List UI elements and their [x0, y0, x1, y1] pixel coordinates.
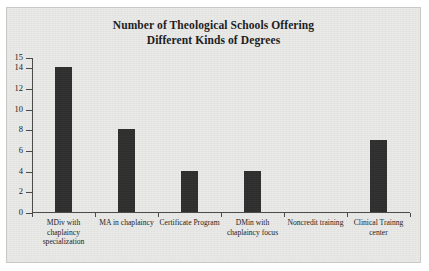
y-tick-6: 6	[26, 151, 32, 152]
x-tick-5	[347, 213, 348, 217]
x-label-line: chaplaincy focus	[221, 228, 284, 238]
y-tick-15: 15	[26, 58, 32, 59]
y-tick-4: 4	[26, 172, 32, 173]
x-label-line: DMin with	[221, 218, 284, 228]
x-label-0: MDiv withchaplaincyspecialization	[32, 218, 95, 247]
y-tick-14: 14	[26, 68, 32, 69]
y-tick-label-15: 15	[15, 51, 24, 64]
x-tick-6	[410, 213, 411, 217]
bar-0	[55, 67, 72, 212]
x-label-3: DMin withchaplaincy focus	[221, 218, 284, 237]
x-label-4: Noncredit training	[284, 218, 347, 228]
bar-chart-figure: Number of Theological Schools Offering D…	[6, 7, 421, 263]
x-tick-3	[221, 213, 222, 217]
y-tick-10: 10	[26, 110, 32, 111]
x-label-line: MA in chaplaincy	[95, 218, 158, 228]
chart-title-line-1: Number of Theological Schools Offering	[7, 18, 420, 33]
x-label-line: chaplaincy	[32, 228, 95, 238]
x-label-2: Certificate Program	[158, 218, 221, 228]
x-label-line: MDiv with	[32, 218, 95, 228]
x-label-line: specialization	[32, 237, 95, 247]
x-label-1: MA in chaplaincy	[95, 218, 158, 228]
y-tick-label-2: 2	[19, 185, 23, 198]
x-tick-4	[284, 213, 285, 217]
bar-2	[181, 171, 198, 212]
x-tick-2	[158, 213, 159, 217]
x-label-5: Clinical Trainngcenter	[347, 218, 410, 237]
y-tick-2: 2	[26, 192, 32, 193]
bar-5	[370, 140, 387, 212]
x-label-line: Certificate Program	[158, 218, 221, 228]
x-label-line: Clinical Trainng	[347, 218, 410, 228]
y-tick-label-6: 6	[19, 144, 23, 157]
y-tick-label-0: 0	[19, 206, 23, 219]
x-label-line: center	[347, 228, 410, 238]
y-tick-12: 12	[26, 89, 32, 90]
y-tick-label-4: 4	[19, 165, 23, 178]
plot-area: 0246810121415 MDiv withchaplaincyspecial…	[32, 58, 410, 213]
y-axis-line	[32, 58, 33, 213]
bar-3	[244, 171, 261, 212]
bar-1	[118, 129, 135, 212]
x-label-line: Noncredit training	[284, 218, 347, 228]
y-tick-label-10: 10	[15, 103, 24, 116]
y-tick-8: 8	[26, 130, 32, 131]
y-tick-label-8: 8	[19, 123, 23, 136]
x-tick-1	[95, 213, 96, 217]
chart-title-line-2: Different Kinds of Degrees	[7, 33, 420, 48]
chart-title: Number of Theological Schools Offering D…	[7, 18, 420, 47]
x-tick-0	[32, 213, 33, 217]
y-tick-label-12: 12	[15, 82, 24, 95]
